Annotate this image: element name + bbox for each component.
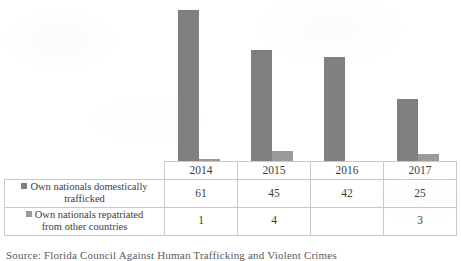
- legend-swatch-icon-series-0: [21, 183, 27, 189]
- column-header-year-2: 2016: [311, 162, 384, 180]
- bar-group-2017: [383, 0, 456, 161]
- series-label-line1: Own nationals repatriated: [35, 209, 143, 220]
- table-row: Own nationals repatriatedfrom other coun…: [5, 207, 457, 235]
- bar-group-2016: [310, 0, 383, 161]
- chart-data-table: 2014 2015 2016 2017 Own nationals domest…: [4, 161, 457, 236]
- figure-source-caption: Source: Florida Council Against Human Tr…: [6, 249, 456, 261]
- cell-series0-2014: 61: [165, 180, 238, 208]
- cell-series0-2015: 45: [238, 180, 311, 208]
- cell-series1-2016: [311, 207, 384, 235]
- series-label-repatriated: Own nationals repatriatedfrom other coun…: [5, 207, 165, 235]
- cell-series0-2016: 42: [311, 180, 384, 208]
- cell-series1-2014: 1: [165, 207, 238, 235]
- table-header-row: 2014 2015 2016 2017: [5, 162, 457, 180]
- bar-group-2015: [237, 0, 310, 161]
- cell-series1-2017: 3: [384, 207, 457, 235]
- legend-swatch-icon-series-1: [26, 211, 32, 217]
- bar-2015-series-1: [272, 151, 293, 161]
- series-label-domestically-trafficked: Own nationals domesticallytrafficked: [5, 180, 165, 208]
- column-header-year-1: 2015: [238, 162, 311, 180]
- bar-2016-series-0: [324, 57, 345, 161]
- series-label-line1: Own nationals domestically: [30, 181, 147, 192]
- table-row: Own nationals domesticallytrafficked 61 …: [5, 180, 457, 208]
- bar-2015-series-0: [251, 50, 272, 161]
- series-label-line2: from other countries: [7, 221, 162, 233]
- bar-group-2014: [164, 0, 237, 161]
- cell-series1-2015: 4: [238, 207, 311, 235]
- bar-2017-series-1: [418, 154, 439, 161]
- table-corner-cell: [5, 162, 165, 180]
- bar-2014-series-0: [178, 10, 199, 161]
- column-header-year-0: 2014: [165, 162, 238, 180]
- cell-series0-2017: 25: [384, 180, 457, 208]
- bar-2017-series-0: [397, 99, 418, 161]
- bar-chart-plot-area: [164, 0, 456, 161]
- column-header-year-3: 2017: [384, 162, 457, 180]
- series-label-line2: trafficked: [7, 193, 162, 205]
